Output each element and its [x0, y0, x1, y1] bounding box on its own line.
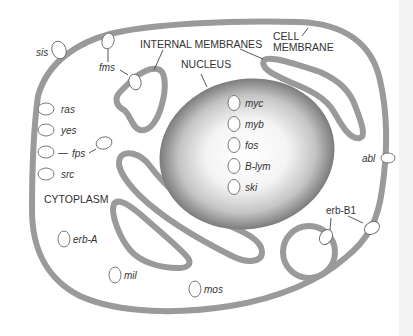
abl-label: abl: [362, 153, 376, 164]
cytoplasm-label: CYTOPLASM: [44, 193, 109, 205]
mos-label: mos: [204, 284, 223, 295]
cell-diagram: INTERNAL MEMBRANES NUCLEUS CELL MEMBRANE…: [0, 0, 413, 336]
yes-oval: [38, 124, 54, 136]
erb-b1-label: erb-B1: [326, 205, 356, 216]
internal-membrane-er-lower: [113, 202, 189, 268]
nucleus: [145, 62, 348, 245]
fos-label: fos: [245, 140, 258, 151]
ras-label: ras: [61, 104, 75, 115]
src-oval: [38, 168, 54, 180]
erb-a-label: erb-A: [73, 234, 98, 245]
mil-oval: [109, 267, 121, 283]
leader-fps: [89, 149, 96, 153]
myb-label: myb: [245, 119, 264, 130]
myc-oval: [228, 96, 240, 111]
myc-label: myc: [245, 98, 263, 109]
leader-cell-membrane: [302, 28, 308, 36]
internal-membranes-label: INTERNAL MEMBRANES: [140, 38, 262, 50]
b-lym-oval: [228, 159, 240, 174]
internal-membrane-blob: [117, 69, 165, 131]
sis-label: sis: [36, 47, 48, 58]
leader-erb-b1-outer: [348, 216, 363, 223]
cell-membrane-label-line2: MEMBRANE: [273, 41, 334, 53]
cell-svg: INTERNAL MEMBRANES NUCLEUS CELL MEMBRANE…: [0, 0, 413, 336]
leader-nucleus: [201, 74, 207, 87]
ski-label: ski: [245, 182, 258, 193]
src-label: src: [61, 169, 74, 180]
leader-internal-membranes: [240, 49, 263, 59]
fms-label: fms: [99, 62, 115, 73]
fps-oval-left: [38, 146, 54, 158]
fos-oval: [228, 138, 240, 153]
nucleus-label: NUCLEUS: [181, 58, 231, 70]
b-lym-label: B-lym: [245, 161, 271, 172]
myb-oval: [228, 117, 240, 132]
fps-oval-right: [95, 135, 114, 151]
erb-a-oval: [58, 231, 70, 247]
fps-dash: —: [58, 147, 68, 158]
scan-edge: [399, 0, 413, 336]
mos-oval: [189, 281, 201, 297]
leader-fms-inner: [120, 70, 128, 75]
ski-oval: [228, 180, 240, 195]
fps-label: fps: [72, 148, 85, 159]
abl-protein-membrane: [381, 153, 395, 163]
yes-label: yes: [60, 125, 77, 136]
mil-label: mil: [124, 270, 138, 281]
leader-erb-b1-inner: [330, 218, 331, 230]
ras-oval: [38, 103, 54, 115]
